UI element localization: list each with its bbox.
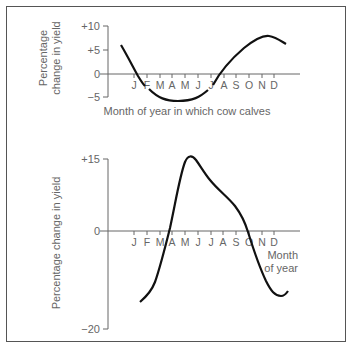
bottom-month-may: M bbox=[181, 236, 190, 248]
bottom-x-axis-label-line2: of year bbox=[264, 262, 298, 274]
bottom-month-nov: N bbox=[258, 236, 266, 248]
bottom-month-dec: D bbox=[270, 236, 278, 248]
top-month-jan: J bbox=[131, 79, 136, 91]
top-ytick-0: 0 bbox=[94, 68, 100, 80]
top-month-labels: J F M A M J J A S O N D bbox=[131, 79, 278, 91]
top-month-mar: M bbox=[156, 79, 165, 91]
bottom-month-feb: F bbox=[144, 236, 150, 248]
top-month-nov: N bbox=[258, 79, 266, 91]
bottom-month-jun: J bbox=[195, 236, 200, 248]
top-month-ticks bbox=[134, 74, 274, 78]
top-month-sep: S bbox=[232, 79, 239, 91]
top-y-axis-label-line1: Percentage bbox=[37, 30, 49, 86]
bottom-ytick-15: +15 bbox=[81, 153, 100, 165]
top-ytick-5: +5 bbox=[87, 44, 100, 56]
top-x-axis-label: Month of year in which cow calves bbox=[104, 105, 271, 117]
top-month-jun: J bbox=[195, 79, 200, 91]
top-month-apr: A bbox=[168, 79, 175, 91]
bottom-ytick-neg20: −20 bbox=[81, 323, 100, 335]
top-y-axis-label-line2: change in yield bbox=[50, 21, 62, 94]
bottom-month-ticks bbox=[134, 231, 274, 235]
top-month-aug: A bbox=[220, 79, 227, 91]
bottom-chart: Percentage change in yield +15 0 −20 J F… bbox=[50, 153, 300, 335]
bottom-month-aug: A bbox=[219, 236, 226, 248]
top-ytick-10: +10 bbox=[81, 20, 100, 32]
bottom-month-jul: J bbox=[208, 236, 213, 248]
bottom-curve bbox=[140, 156, 288, 302]
bottom-month-labels: J F M A M J J A S O N D bbox=[131, 236, 278, 248]
bottom-y-axis-label: Percentage change in yield bbox=[50, 177, 62, 310]
top-month-may: M bbox=[181, 79, 190, 91]
top-month-dec: D bbox=[270, 79, 278, 91]
bottom-month-sep: S bbox=[232, 236, 239, 248]
charts-canvas: Percentage change in yield +10 +5 0 −5 J… bbox=[0, 0, 352, 349]
top-chart: Percentage change in yield +10 +5 0 −5 J… bbox=[37, 20, 300, 117]
top-month-oct: O bbox=[245, 79, 253, 91]
top-month-jul: J bbox=[208, 79, 213, 91]
bottom-x-axis-label-line1: Month bbox=[267, 249, 298, 261]
bottom-month-apr: A bbox=[168, 236, 175, 248]
bottom-month-jan: J bbox=[131, 236, 136, 248]
top-ytick-neg5: −5 bbox=[87, 91, 100, 103]
bottom-ytick-0: 0 bbox=[94, 225, 100, 237]
bottom-month-mar: M bbox=[156, 236, 165, 248]
